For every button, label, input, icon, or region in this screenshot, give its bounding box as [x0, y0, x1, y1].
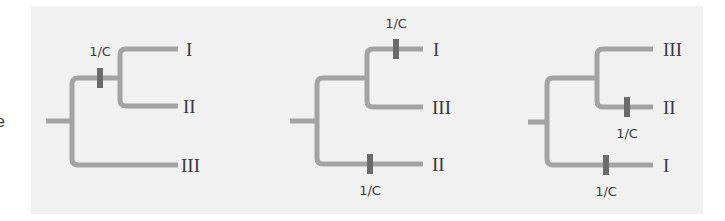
marker-label: 1/C	[385, 16, 407, 31]
marker-label: 1/C	[89, 44, 111, 59]
main-clade-branches	[317, 78, 423, 164]
taxon-label: I	[433, 39, 439, 60]
character-change-marker	[97, 68, 103, 88]
tree-3: IIIIII1/C1/C	[528, 39, 682, 199]
taxon-label: II	[432, 154, 445, 175]
inner-clade-branches	[120, 49, 178, 106]
taxon-label: II	[663, 97, 676, 118]
character-change-marker	[393, 39, 399, 59]
taxon-label: III	[663, 39, 682, 60]
main-clade-branches	[72, 78, 178, 165]
tree-2: IIIIII1/C1/C	[290, 16, 451, 198]
taxon-label: I	[186, 39, 192, 60]
taxon-label: III	[181, 155, 200, 176]
tree-1: IIIIII1/C	[46, 39, 200, 176]
marker-label: 1/C	[595, 184, 617, 199]
phylogenetic-trees-diagram: IIIIII1/CIIIIII1/C1/CIIIIII1/C1/C	[0, 0, 725, 221]
taxon-label: I	[663, 155, 669, 176]
taxon-label: III	[432, 97, 451, 118]
character-change-marker	[367, 154, 373, 174]
main-clade-branches	[547, 78, 653, 165]
character-change-marker	[624, 97, 630, 117]
marker-label: 1/C	[359, 183, 381, 198]
character-change-marker	[603, 155, 609, 175]
marker-label: 1/C	[616, 126, 638, 141]
taxon-label: II	[183, 96, 196, 117]
